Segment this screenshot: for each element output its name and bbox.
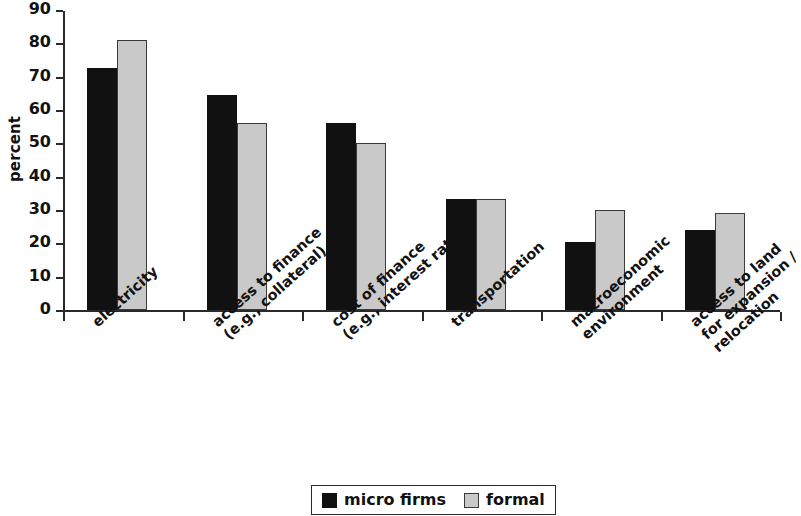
y-tick-label: 60 [29,99,51,119]
chart-legend: micro firms formal [311,485,556,515]
legend-label-micro-firms: micro firms [344,491,446,509]
bar-micro-firms-0 [87,68,117,310]
y-tick-label: 10 [29,266,51,286]
x-tick-3 [422,312,424,321]
x-tick-5 [661,312,663,321]
legend-label-formal: formal [486,491,545,509]
bar-micro-firms-1 [207,95,237,310]
y-tick-80: 80 [56,43,63,45]
y-tick-70: 70 [56,77,63,79]
bar-micro-firms-2 [326,123,356,310]
y-axis-title: percent [6,104,24,194]
y-tick-label: 50 [29,132,51,152]
y-tick-label: 20 [29,232,51,252]
y-tick-50: 50 [56,143,63,145]
y-tick-label: 30 [29,199,51,219]
x-tick-0 [63,312,65,321]
y-tick-label: 90 [29,0,51,19]
legend-swatch-micro-firms [322,493,337,508]
y-tick-20: 20 [56,243,63,245]
y-tick-label: 70 [29,66,51,86]
x-tick-4 [541,312,543,321]
y-tick-10: 10 [56,277,63,279]
y-axis-line [63,11,65,312]
y-tick-0: 0 [56,310,63,312]
legend-swatch-formal [464,493,479,508]
y-tick-label: 80 [29,32,51,52]
x-tick-2 [302,312,304,321]
legend-item-formal: formal [464,491,545,509]
y-tick-30: 30 [56,210,63,212]
y-tick-40: 40 [56,177,63,179]
x-tick-1 [183,312,185,321]
y-tick-label: 0 [40,299,51,319]
y-tick-60: 60 [56,110,63,112]
x-tick-6 [780,312,782,321]
legend-item-micro-firms: micro firms [322,491,446,509]
y-tick-90: 90 [56,10,63,12]
y-tick-label: 40 [29,166,51,186]
